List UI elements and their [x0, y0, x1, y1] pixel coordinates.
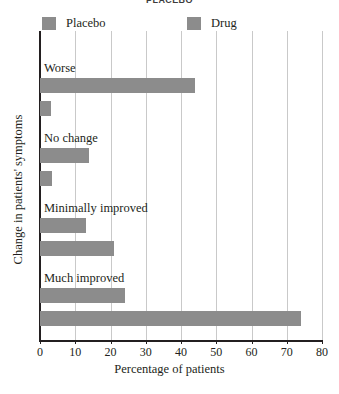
legend-label-drug: Drug	[211, 16, 237, 31]
source-caption	[34, 383, 334, 394]
bar-drug	[40, 311, 301, 326]
gridline	[322, 31, 323, 340]
x-tick	[287, 340, 288, 344]
x-tick-label: 40	[175, 345, 187, 360]
bar-drug	[40, 241, 114, 256]
bar-drug	[40, 101, 51, 116]
x-tick-label: 0	[37, 345, 43, 360]
x-tick	[40, 340, 41, 344]
x-tick-label: 70	[281, 345, 293, 360]
x-tick	[252, 340, 253, 344]
gridline	[252, 31, 253, 340]
x-tick-label: 10	[69, 345, 81, 360]
gridline	[287, 31, 288, 340]
chart-legend: Placebo Drug	[42, 15, 302, 31]
y-axis-title: Change in patients' symptoms	[11, 60, 26, 320]
bar-placebo	[40, 78, 195, 93]
bar-placebo	[40, 218, 86, 233]
legend-swatch-placebo	[42, 17, 56, 30]
x-tick	[146, 340, 147, 344]
legend-swatch-drug	[187, 17, 201, 30]
x-tick	[75, 340, 76, 344]
x-tick	[181, 340, 182, 344]
x-tick-label: 20	[105, 345, 117, 360]
legend-item-placebo: Placebo	[42, 15, 106, 31]
bar-drug	[40, 171, 52, 186]
category-label: Minimally improved	[44, 201, 148, 216]
x-axis-title: Percentage of patients	[0, 362, 339, 377]
x-tick	[111, 340, 112, 344]
x-tick-label: 60	[246, 345, 258, 360]
x-tick	[322, 340, 323, 344]
legend-label-placebo: Placebo	[66, 16, 106, 31]
x-tick-label: 80	[316, 345, 328, 360]
x-tick-label: 50	[210, 345, 222, 360]
plot-area: 01020304050607080 WorseNo changeMinimall…	[40, 31, 322, 340]
legend-item-drug: Drug	[187, 15, 237, 31]
x-tick-label: 30	[140, 345, 152, 360]
category-label: No change	[44, 131, 98, 146]
bar-placebo	[40, 288, 125, 303]
chart-title: PLACEBO	[0, 0, 339, 6]
x-tick	[216, 340, 217, 344]
category-label: Much improved	[44, 271, 124, 286]
category-label: Worse	[44, 61, 76, 76]
gridline	[216, 31, 217, 340]
bar-placebo	[40, 148, 89, 163]
chart-figure: PLACEBO Placebo Drug 01020304050607080 W…	[0, 0, 339, 394]
